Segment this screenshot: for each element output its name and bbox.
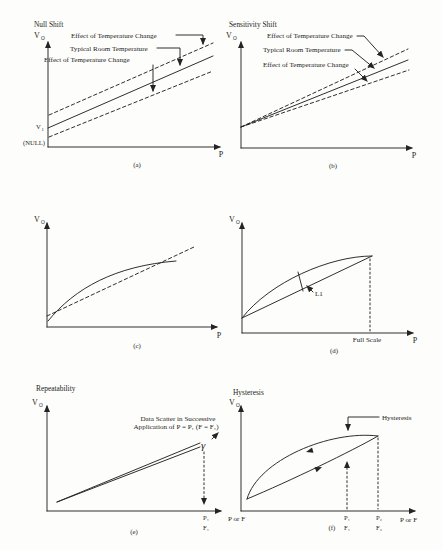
panel-a-annotation-lower: Effect of Temperature Change: [44, 56, 130, 64]
panel-a-annotation-upper-arrow: [176, 35, 203, 44]
panel-f-annotation-arrow: [348, 417, 379, 430]
panel-a-solid-line: [48, 56, 213, 128]
panel-a-xaxis-label: P: [219, 150, 224, 159]
panel-d-yaxis-sub: O: [236, 219, 240, 225]
panel-b-yaxis-label: V: [226, 31, 232, 40]
panel-f-caption: (f): [329, 524, 336, 532]
figure-canvas: Null Shift V O P V 1 (NULL) Effect of Te…: [0, 0, 443, 550]
panel-b-annotation-lower: Effect of Temperature Change: [263, 61, 349, 69]
panel-c-dashed-line: [47, 247, 194, 316]
panel-f-upper-curve-arrow: [305, 448, 313, 455]
panel-e-tick-f1: F₁: [203, 524, 209, 531]
panel-e-annotation-line1: Data Scatter in Successive: [140, 415, 215, 423]
panel-f: Hysteresis V O P or F Hysteresis P₁ F₁ P…: [229, 388, 417, 532]
panel-d-caption: (d): [330, 347, 338, 355]
panel-f-tick-f2: F₂: [376, 524, 382, 531]
figure-page: Null Shift V O P V 1 (NULL) Effect of Te…: [0, 0, 443, 550]
panel-a-yaxis-sub: O: [41, 35, 45, 41]
panel-b-caption: (b): [329, 162, 337, 170]
panel-f-yaxis-sub: O: [236, 402, 240, 408]
panel-a-caption: (a): [133, 161, 141, 169]
panel-e-title: Repeatability: [36, 384, 76, 393]
panel-f-tick-p1: P₁: [344, 514, 350, 521]
panel-d-yaxis-label: V: [229, 215, 235, 224]
panel-b-yaxis-sub: O: [233, 35, 237, 41]
panel-d-l1-arrow: [307, 286, 313, 292]
panel-a-yaxis-label: V: [34, 31, 40, 40]
panel-e-yaxis-sub: O: [39, 402, 43, 408]
panel-e-scatter-brace: γ: [201, 439, 206, 451]
panel-e-caption: (e): [130, 528, 138, 536]
panel-b-solid-line: [241, 60, 408, 127]
panel-b-annotation-upper: Effect of Temperature Change: [267, 32, 353, 40]
panel-b-annotation-middle-arrow: [345, 50, 374, 68]
panel-e-tick-p1: P₁: [203, 514, 209, 521]
panel-f-xaxis-label: P or F: [400, 516, 417, 524]
panel-b-annotation-middle: Typical Room Temperature: [263, 46, 341, 54]
panel-b-lower-dashed-line: [241, 70, 409, 127]
panel-c-caption: (c): [133, 342, 141, 350]
panel-c-yaxis-label: V: [34, 215, 40, 224]
panel-e: Repeatability V O P or F γ Data Scatter …: [32, 384, 245, 536]
panel-f-lower-curve-arrow: [315, 465, 324, 473]
panel-c-yaxis-sub: O: [41, 219, 45, 225]
panel-b-annotation-upper-arrow: [357, 36, 383, 57]
panel-a: Null Shift V O P V 1 (NULL) Effect of Te…: [23, 20, 224, 169]
panel-a-annotation-upper: Effect of Temperature Change: [71, 32, 157, 40]
panel-d-chord-line: [242, 256, 372, 318]
panel-f-tick-f1: F₁: [344, 524, 350, 531]
panel-a-annotation-middle: Typical Room Temperature: [70, 45, 148, 53]
panel-d-xaxis-label: P: [413, 336, 418, 345]
panel-e-line-upper: [57, 443, 200, 502]
panel-a-v1-sub: 1: [42, 127, 45, 132]
panel-f-loop-upper-curve: [247, 435, 378, 499]
panel-c: V O P (c): [34, 215, 222, 350]
panel-b-title: Sensitivity Shift: [229, 20, 278, 29]
panel-b-xaxis-label: P: [412, 151, 417, 160]
panel-e-yaxis-label: V: [32, 398, 38, 407]
panel-d-l1-tick: [298, 272, 303, 291]
panel-d-full-scale-label: Full Scale: [353, 336, 382, 344]
panel-d: V O P L1 Full Scale (d): [229, 215, 418, 355]
panel-f-tick-p2: P₂: [376, 514, 382, 521]
panel-b: Sensitivity Shift V O P Effect of Temper…: [226, 20, 417, 170]
panel-c-curve: [48, 261, 176, 321]
panel-d-l1-label: L1: [315, 290, 323, 298]
panel-f-yaxis-label: V: [229, 398, 235, 407]
panel-e-annotation-line2: Application of P = P₁ (F = F₁): [133, 423, 219, 431]
panel-a-title: Null Shift: [34, 20, 64, 29]
panel-f-title: Hysteresis: [233, 388, 264, 397]
panel-a-null-label: (NULL): [23, 139, 45, 147]
panel-e-scatter-arrow: [212, 433, 218, 439]
panel-e-line-lower: [57, 447, 200, 502]
panel-c-xaxis-label: P: [217, 331, 222, 340]
panel-f-annotation-label: Hysteresis: [382, 414, 412, 422]
panel-e-xaxis-label: P or F: [228, 515, 245, 523]
panel-a-v1-label: V: [36, 123, 41, 130]
